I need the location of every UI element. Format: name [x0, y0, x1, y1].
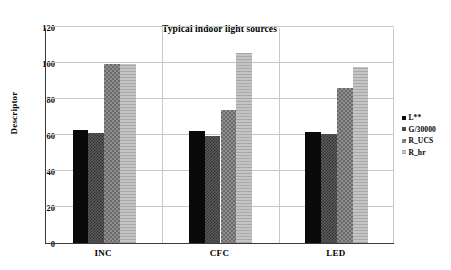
legend-swatch-icon: [402, 150, 406, 154]
legend: L**G/30000R_UCSR_hr: [402, 112, 451, 158]
bar: [221, 110, 237, 243]
bar: [353, 67, 369, 243]
bar: [120, 64, 136, 243]
gridline-vertical: [279, 28, 280, 243]
bar: [321, 134, 337, 243]
legend-swatch-icon: [402, 139, 406, 143]
bar: [73, 130, 89, 243]
legend-entry: R_UCS: [402, 135, 451, 147]
y-axis-title: Descriptor: [9, 63, 19, 163]
bar: [205, 136, 221, 243]
bar: [88, 133, 104, 243]
legend-label: L**: [409, 113, 422, 122]
bar: [104, 64, 120, 243]
x-tick-label: CFC: [180, 248, 260, 258]
x-tick-label: LED: [296, 248, 376, 258]
bar: [189, 131, 205, 243]
bar-chart-figure: Descriptor Typical indoor light sources …: [0, 0, 451, 270]
bar: [305, 132, 321, 243]
legend-entry: R_hr: [402, 147, 451, 159]
legend-entry: L**: [402, 112, 451, 124]
gridline-vertical: [162, 28, 163, 243]
legend-label: G/30000: [409, 125, 436, 134]
plot-area: [45, 28, 394, 244]
legend-label: R_UCS: [409, 136, 434, 145]
bar: [236, 53, 252, 243]
gridline-horizontal: [46, 26, 394, 27]
plot-right-border: [393, 28, 394, 243]
bar: [337, 88, 353, 243]
legend-label: R_hr: [409, 148, 426, 157]
legend-swatch-icon: [402, 127, 406, 131]
gridline-horizontal: [46, 62, 394, 63]
x-tick-label: INC: [63, 248, 143, 258]
legend-entry: G/30000: [402, 124, 451, 136]
legend-swatch-icon: [402, 116, 406, 120]
